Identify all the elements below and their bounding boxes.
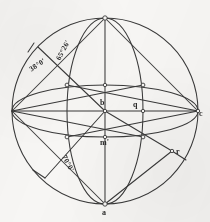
sphere-diagram <box>0 0 210 222</box>
radius-a-to-left <box>12 111 105 204</box>
point-label-a: a <box>102 209 106 217</box>
point-label-q: q <box>133 101 138 109</box>
point-label-b: b <box>100 99 105 107</box>
point-label-m-prime: m' <box>100 139 109 147</box>
node-r <box>170 149 173 152</box>
point-label-c: c <box>199 110 203 118</box>
node-lower-right <box>141 135 145 139</box>
node-bottom-pole-a <box>103 202 107 206</box>
chord-left-to-ur <box>12 85 143 111</box>
node-upper-left <box>65 83 69 87</box>
node-upper-right <box>141 83 145 87</box>
chord-left-to-lr <box>12 111 143 137</box>
node-top-pole <box>103 16 107 20</box>
node-lower-left <box>65 135 69 139</box>
radius-pole-to-right <box>105 18 198 111</box>
tick-38deg <box>28 43 34 52</box>
node-center-b <box>103 109 106 112</box>
radius-38deg <box>38 47 105 111</box>
node-q <box>141 109 144 112</box>
node-upper-mid <box>103 83 106 86</box>
chord-right-to-ll <box>67 111 198 137</box>
radius-a-to-r <box>105 151 172 204</box>
figure-canvas: b q c r m' a 38°0' 65°26' 70°0' <box>0 0 210 222</box>
point-label-r: r <box>176 148 180 156</box>
